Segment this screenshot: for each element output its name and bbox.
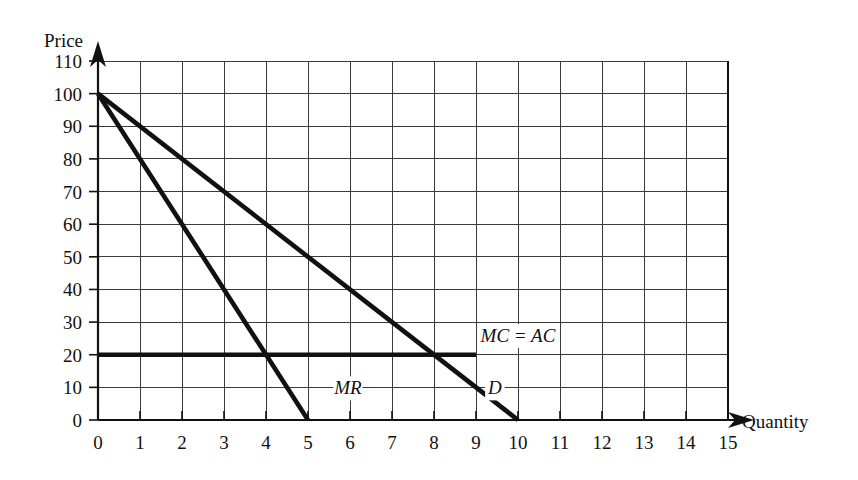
y-axis-title: Price [44, 30, 83, 51]
x-axis-tick-label: 8 [429, 432, 439, 453]
x-axis-tick-label: 12 [593, 432, 612, 453]
x-axis-tick-label: 4 [261, 432, 271, 453]
y-axis-tick-label: 50 [63, 247, 82, 268]
x-axis-tick-label: 13 [635, 432, 654, 453]
x-axis-tick-label: 3 [219, 432, 229, 453]
x-axis-tick-label: 10 [509, 432, 528, 453]
x-axis-tick-label: 5 [303, 432, 313, 453]
y-axis-tick-label: 110 [54, 51, 82, 72]
x-axis-tick-label: 6 [345, 432, 355, 453]
curve-label-mc-ac: MC = AC [480, 325, 556, 346]
x-axis-tick-label: 1 [135, 432, 145, 453]
x-axis-tick-label: 0 [93, 432, 103, 453]
x-axis-tick-label: 11 [551, 432, 569, 453]
x-axis-tick-labels: 0123456789101112131415 [93, 432, 737, 453]
y-axis-tick-label: 100 [54, 84, 83, 105]
monopoly-price-quantity-chart: 0102030405060708090100110 01234567891011… [0, 0, 858, 480]
curve-label-d: D [487, 377, 502, 398]
x-axis-title: Quantity [742, 411, 809, 432]
y-axis-tick-label: 30 [63, 312, 82, 333]
y-axis-tick-label: 80 [63, 149, 82, 170]
y-axis-tick-label: 70 [63, 182, 82, 203]
y-axis-tick-label: 60 [63, 214, 82, 235]
x-axis-tick-label: 14 [677, 432, 697, 453]
x-axis-tick-label: 9 [471, 432, 481, 453]
y-axis-tick-label: 10 [63, 377, 82, 398]
x-axis-tick-label: 7 [387, 432, 397, 453]
curve-label-mr: MR [333, 377, 362, 398]
x-axis-tick-label: 15 [719, 432, 738, 453]
chart-tickmarks [89, 61, 728, 420]
y-axis-tick-label: 20 [63, 345, 82, 366]
y-axis-tick-label: 40 [63, 279, 82, 300]
chart-canvas: 0102030405060708090100110 01234567891011… [0, 0, 858, 480]
y-axis-tick-label: 90 [63, 116, 82, 137]
y-axis-tick-label: 0 [73, 410, 83, 431]
x-axis-tick-label: 2 [177, 432, 187, 453]
y-axis-tick-labels: 0102030405060708090100110 [54, 51, 83, 431]
